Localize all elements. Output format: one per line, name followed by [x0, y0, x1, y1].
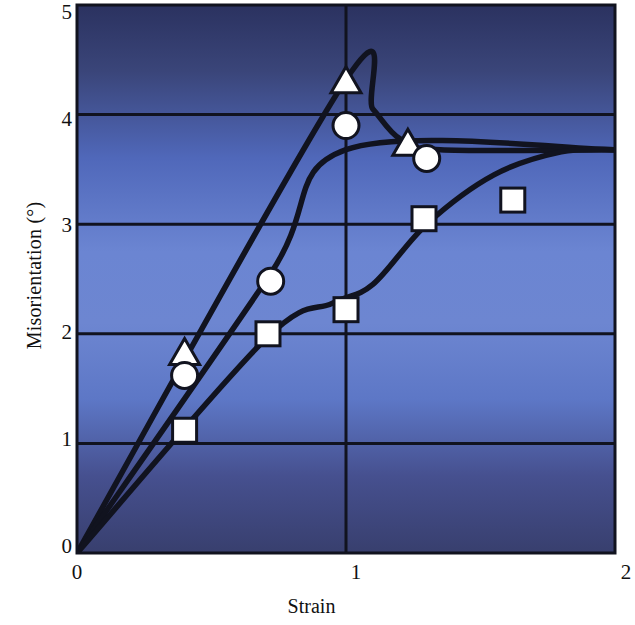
marker-circle-2	[333, 113, 359, 139]
marker-square-1	[256, 322, 280, 346]
marker-square-2	[334, 298, 358, 322]
marker-square-3	[412, 207, 436, 231]
marker-square-4	[501, 188, 525, 212]
marker-circle-0	[172, 362, 198, 388]
marker-square-0	[173, 418, 197, 442]
marker-circle-3	[414, 145, 440, 171]
marker-circle-1	[258, 268, 284, 294]
